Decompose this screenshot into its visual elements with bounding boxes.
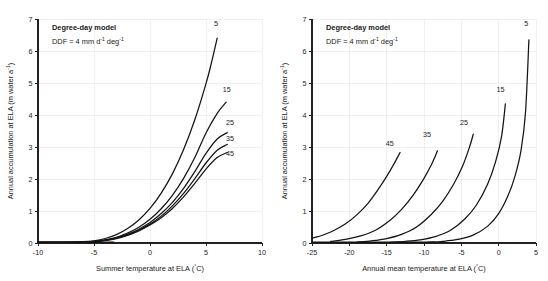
x-axis-title: Annual mean temperature at ELA (°C) bbox=[362, 263, 486, 273]
x-tick-label: -5 bbox=[458, 248, 464, 257]
curve-label-35: 35 bbox=[226, 134, 234, 143]
y-tick-label: 1 bbox=[29, 207, 33, 216]
curve-15 bbox=[38, 102, 226, 242]
curve-35 bbox=[38, 144, 227, 242]
x-tick-label: -25 bbox=[307, 248, 317, 257]
x-tick-label: -20 bbox=[344, 248, 354, 257]
curve-label-group: 453525155 bbox=[386, 19, 529, 148]
curve-group bbox=[38, 38, 227, 242]
x-tick-label: 0 bbox=[148, 248, 152, 257]
curve-label-15: 15 bbox=[223, 85, 231, 94]
chart-panel-left: 01234567-10-50510515253545Degree-day mod… bbox=[0, 0, 274, 281]
x-tick-label: 10 bbox=[258, 248, 266, 257]
chart-svg-left: 01234567-10-50510515253545Degree-day mod… bbox=[0, 0, 274, 281]
curve-label-5: 5 bbox=[524, 19, 528, 28]
y-tick-label: 0 bbox=[29, 239, 33, 248]
y-tick-label: 1 bbox=[303, 207, 307, 216]
x-tick-label: -10 bbox=[419, 248, 429, 257]
x-tick-label: 0 bbox=[497, 248, 501, 257]
curve-label-5: 5 bbox=[214, 19, 218, 28]
curve-label-45: 45 bbox=[386, 139, 394, 148]
annotation-title: Degree-day model bbox=[52, 23, 116, 32]
y-tick-label: 7 bbox=[29, 15, 33, 24]
curve-5 bbox=[38, 38, 217, 242]
annotation-ddf: DDF = 4 mm d-1 deg-1 bbox=[326, 36, 398, 46]
x-tick-label: -5 bbox=[91, 248, 97, 257]
y-tick-label: 5 bbox=[29, 79, 33, 88]
y-tick-label: 3 bbox=[303, 143, 307, 152]
annotation-block: Degree-day modelDDF = 4 mm d-1 deg-1 bbox=[52, 23, 124, 46]
curve-15 bbox=[390, 104, 505, 243]
x-tick-label: -15 bbox=[381, 248, 391, 257]
curve-35 bbox=[331, 151, 438, 242]
annotation-title: Degree-day model bbox=[326, 23, 390, 32]
curve-group bbox=[312, 40, 529, 243]
x-tick-label: -10 bbox=[33, 248, 43, 257]
y-axis-title: Annual accumulation at ELA (m water a-1) bbox=[279, 63, 289, 199]
y-tick-label: 6 bbox=[29, 47, 33, 56]
x-tick-label: 5 bbox=[204, 248, 208, 257]
curve-5 bbox=[428, 40, 529, 243]
y-tick-label: 7 bbox=[303, 15, 307, 24]
y-tick-label: 2 bbox=[303, 175, 307, 184]
curve-label-45: 45 bbox=[226, 149, 234, 158]
chart-svg-right: 01234567-25-20-15-10-505453525155Degree-… bbox=[274, 0, 548, 281]
curve-label-25: 25 bbox=[226, 118, 234, 127]
y-tick-label: 2 bbox=[29, 175, 33, 184]
y-tick-label: 3 bbox=[29, 143, 33, 152]
x-axis-title: Summer temperature at ELA (°C) bbox=[96, 263, 204, 273]
y-tick-label: 4 bbox=[29, 111, 33, 120]
y-tick-label: 4 bbox=[303, 111, 307, 120]
curve-25 bbox=[357, 134, 473, 242]
y-tick-label: 5 bbox=[303, 79, 307, 88]
x-tick-label: 5 bbox=[534, 248, 538, 257]
chart-panel-right: 01234567-25-20-15-10-505453525155Degree-… bbox=[274, 0, 548, 281]
figure-container: 01234567-10-50510515253545Degree-day mod… bbox=[0, 0, 548, 281]
y-tick-label: 6 bbox=[303, 47, 307, 56]
curve-label-25: 25 bbox=[460, 118, 468, 127]
curve-label-35: 35 bbox=[423, 130, 431, 139]
curve-label-15: 15 bbox=[497, 85, 505, 94]
annotation-ddf: DDF = 4 mm d-1 deg-1 bbox=[52, 36, 124, 46]
y-tick-label: 0 bbox=[303, 239, 307, 248]
annotation-block: Degree-day modelDDF = 4 mm d-1 deg-1 bbox=[326, 23, 398, 46]
y-axis-title: Annual accumulation at ELA (m water a-1) bbox=[5, 63, 15, 199]
